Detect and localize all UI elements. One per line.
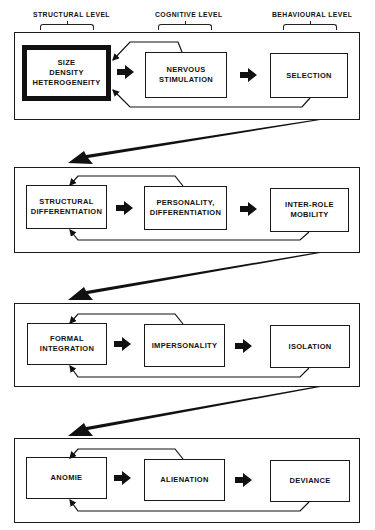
node-label: FORMAL INTEGRATION — [40, 334, 94, 354]
node-personality-differentiation: PERSONALITY, DIFFERENTIATION — [144, 186, 227, 230]
node-structural-differentiation: STRUCTURAL DIFFERENTIATION — [26, 185, 107, 229]
node-alienation: ALIENATION — [144, 459, 225, 501]
node-deviance: DEVIANCE — [270, 460, 350, 502]
node-anomie: ANOMIE — [26, 457, 107, 499]
node-selection: SELECTION — [270, 53, 348, 98]
level-label-structural: STRUCTURAL LEVEL — [33, 10, 110, 19]
node-size-density-heterogeneity: SIZE DENSITY HETEROGENEITY — [22, 45, 111, 101]
node-label: SIZE DENSITY HETEROGENEITY — [32, 58, 100, 88]
brace-cognitive — [158, 24, 212, 30]
brace-structural — [40, 24, 94, 30]
node-label: NERVOUS STIMULATION — [159, 65, 213, 85]
brace-behavioural — [283, 24, 337, 30]
node-impersonality: IMPERSONALITY — [144, 324, 225, 367]
node-formal-integration: FORMAL INTEGRATION — [27, 323, 107, 365]
node-label: IMPERSONALITY — [152, 341, 218, 351]
node-label: SELECTION — [286, 71, 332, 81]
level-label-cognitive: COGNITIVE LEVEL — [155, 10, 223, 19]
node-label: INTER-ROLE MOBILITY — [285, 200, 334, 220]
node-isolation: ISOLATION — [270, 325, 350, 368]
node-inter-role-mobility: INTER-ROLE MOBILITY — [270, 188, 349, 232]
node-label: ALIENATION — [160, 475, 208, 485]
node-label: ISOLATION — [289, 342, 332, 352]
node-label: STRUCTURAL DIFFERENTIATION — [31, 197, 102, 217]
node-label: ANOMIE — [51, 473, 83, 483]
node-label: DEVIANCE — [289, 476, 330, 486]
node-label: PERSONALITY, DIFFERENTIATION — [150, 198, 221, 218]
node-nervous-stimulation: NERVOUS STIMULATION — [145, 52, 227, 98]
level-label-behavioural: BEHAVIOURAL LEVEL — [272, 10, 352, 19]
